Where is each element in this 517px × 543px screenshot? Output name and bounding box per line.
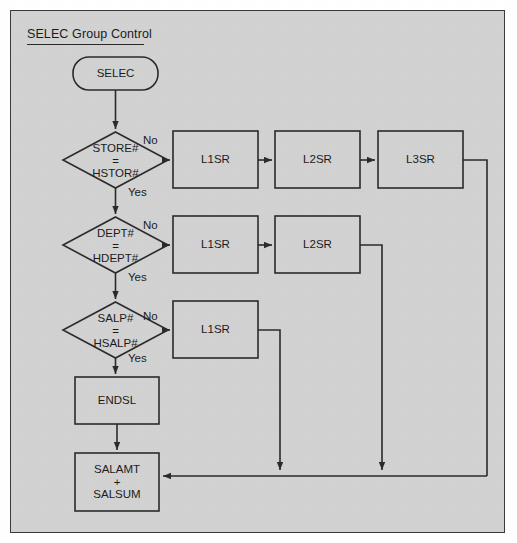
flowchart-graphics xyxy=(0,0,517,543)
node-row2-box1-shape xyxy=(173,216,258,273)
edge-label-decision1-yes: Yes xyxy=(128,186,147,198)
edge-row1-return xyxy=(463,160,487,476)
node-row1-box2-shape xyxy=(275,131,360,188)
edge-label-decision3-yes: Yes xyxy=(128,352,147,364)
node-row3-box1-shape xyxy=(173,301,258,358)
edge-label-decision1-no: No xyxy=(143,134,158,146)
node-start-shape xyxy=(73,57,158,90)
edge-label-decision2-no: No xyxy=(143,219,158,231)
node-salamt-shape xyxy=(75,453,159,511)
node-row1-box3-shape xyxy=(378,131,463,188)
node-row2-box2-shape xyxy=(275,216,360,273)
edge-row2-return xyxy=(360,245,382,470)
flowchart-figure: SELEC Group Control SELEC STORE#=HSTOR# … xyxy=(0,0,517,543)
figure-title-underline xyxy=(27,44,144,45)
node-row1-box1-shape xyxy=(173,131,258,188)
edge-label-decision2-yes: Yes xyxy=(128,271,147,283)
node-endsl-shape xyxy=(75,377,159,424)
edge-row3-return xyxy=(258,330,280,470)
edge-label-decision3-no: No xyxy=(143,310,158,322)
figure-title: SELEC Group Control xyxy=(27,27,152,41)
